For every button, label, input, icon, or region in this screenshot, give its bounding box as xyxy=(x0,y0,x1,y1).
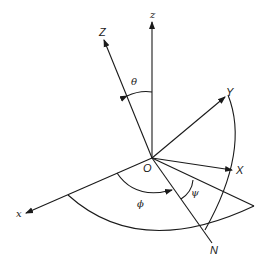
label-psi: ψ xyxy=(191,187,199,198)
theta-arc xyxy=(127,92,152,97)
Y-axis xyxy=(152,97,225,158)
Z-axis xyxy=(104,40,152,158)
label-N: N xyxy=(210,244,218,256)
xy-plane-arc xyxy=(68,195,254,231)
label-Z: Z xyxy=(98,26,107,38)
euler-angle-diagram: z Z θ Y O X ψ ϕ x N xyxy=(0,0,268,260)
label-O: O xyxy=(143,162,152,174)
label-z: z xyxy=(149,9,156,20)
label-x: x xyxy=(16,208,22,219)
x-axis xyxy=(26,158,152,213)
label-phi: ϕ xyxy=(137,198,144,209)
label-X: X xyxy=(235,164,244,176)
label-Y: Y xyxy=(226,86,234,98)
label-theta: θ xyxy=(131,76,137,87)
Y-X-great-circle-arc xyxy=(205,95,235,230)
phi-arc xyxy=(117,173,172,193)
